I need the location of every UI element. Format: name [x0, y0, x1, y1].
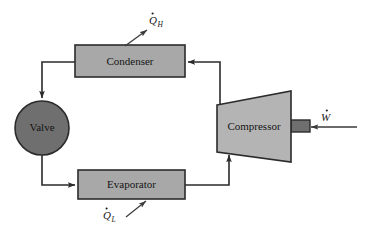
q-h-symbol: Q: [149, 14, 157, 26]
condenser-component: Condenser: [75, 45, 185, 77]
heat-rejected-flow: Q H: [125, 12, 164, 46]
heat-absorbed-arrow: [126, 201, 146, 217]
compressor-label: Compressor: [227, 120, 281, 132]
condenser-label: Condenser: [106, 55, 153, 67]
heat-rejected-arrow: [125, 30, 147, 46]
pipe-compressor-to-condenser: [188, 62, 220, 105]
pipe-condenser-to-valve: [42, 62, 75, 98]
heat-absorbed-flow: Q L: [103, 201, 146, 224]
flow-path-group: [42, 62, 229, 185]
refrigeration-cycle-diagram: Condenser Evaporator Valve Compressor Q …: [0, 0, 367, 234]
w-symbol: W: [321, 111, 331, 123]
valve-component: Valve: [15, 101, 69, 155]
q-h-subscript: H: [157, 20, 164, 29]
valve-label: Valve: [29, 121, 54, 133]
work-input-flow: W: [311, 109, 357, 127]
compressor-component: Compressor: [217, 91, 310, 162]
evaporator-component: Evaporator: [78, 170, 185, 199]
pipe-valve-to-evaporator: [42, 155, 75, 185]
evaporator-label: Evaporator: [107, 178, 156, 190]
compressor-shaft: [291, 120, 310, 132]
q-l-subscript: L: [111, 215, 116, 224]
diagram-canvas: Condenser Evaporator Valve Compressor Q …: [0, 0, 367, 234]
q-l-symbol: Q: [103, 209, 111, 221]
pipe-evaporator-to-compressor: [185, 155, 229, 185]
